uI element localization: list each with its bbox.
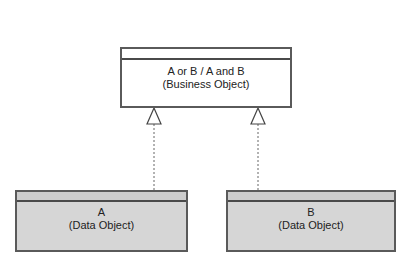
connector-b [251,108,265,190]
business-object-title: A or B / A and B [167,65,244,78]
business-object-header [122,49,290,60]
business-object-body: A or B / A and B (Business Object) [122,60,290,106]
data-object-b-header [228,192,394,202]
data-object-a-box[interactable]: A (Data Object) [15,190,188,252]
data-object-a-title: A [98,206,105,219]
data-object-b-body: B (Data Object) [228,202,394,250]
business-object-subtitle: (Business Object) [163,78,250,91]
hollow-triangle-arrow-icon [147,108,161,124]
data-object-b-title: B [307,206,314,219]
data-object-a-header [17,192,186,202]
business-object-box[interactable]: A or B / A and B (Business Object) [120,47,292,108]
data-object-a-body: A (Data Object) [17,202,186,250]
data-object-b-subtitle: (Data Object) [278,219,343,232]
data-object-b-box[interactable]: B (Data Object) [226,190,396,252]
connector-a [147,108,161,190]
data-object-a-subtitle: (Data Object) [69,219,134,232]
hollow-triangle-arrow-icon [251,108,265,124]
